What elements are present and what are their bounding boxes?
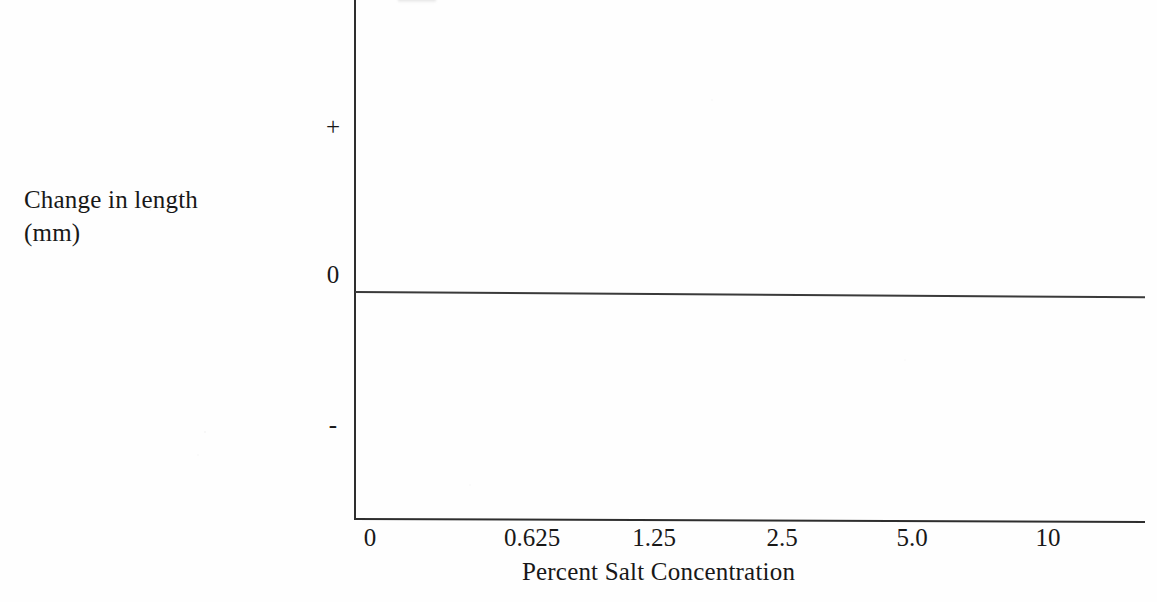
- y-axis-label-line2: (mm): [24, 216, 304, 249]
- x-tick-label-50: 5.0: [896, 524, 927, 552]
- x-tick-label-0: 0: [364, 524, 377, 552]
- y-axis-label-line1: Change in length: [24, 183, 304, 216]
- x-axis-label: Percent Salt Concentration: [522, 558, 795, 586]
- scan-noise-overlay: [0, 0, 1157, 602]
- data-series-line: [355, 291, 1145, 298]
- x-tick-label-10: 10: [1036, 524, 1061, 552]
- y-tick-label-minus: -: [313, 411, 353, 439]
- y-axis-label: Change in length (mm): [24, 183, 304, 249]
- scan-artifact-smudge: [398, 0, 436, 3]
- x-axis-label-container: Percent Salt Concentration: [0, 558, 1157, 586]
- y-tick-label-zero: 0: [313, 261, 353, 289]
- y-axis-line: [354, 0, 356, 520]
- figure-canvas: Change in length (mm) + 0 - 0 0.625 1.25…: [0, 0, 1157, 602]
- x-tick-label-25: 2.5: [766, 524, 797, 552]
- x-tick-label-125: 1.25: [632, 524, 676, 552]
- x-axis-line: [354, 518, 1145, 523]
- x-tick-label-0625: 0.625: [504, 524, 560, 552]
- y-tick-label-plus: +: [313, 113, 353, 141]
